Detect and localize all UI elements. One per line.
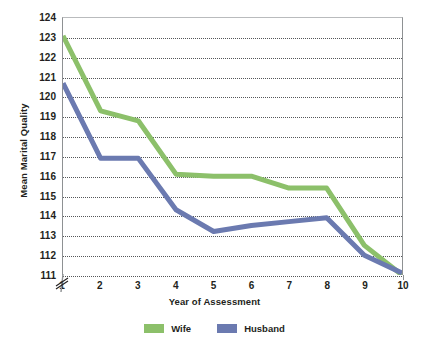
series-layer xyxy=(63,18,402,275)
x-axis-tick-label: 2 xyxy=(87,280,113,291)
y-axis-tick-label: 115 xyxy=(16,190,56,201)
x-axis-tick-label: 5 xyxy=(201,280,227,291)
y-axis-tick-label: 123 xyxy=(16,31,56,42)
x-axis-tick-label: 8 xyxy=(314,280,340,291)
gridline xyxy=(63,276,402,277)
legend-swatch-icon xyxy=(144,324,164,333)
axis-break-icon xyxy=(55,274,71,292)
legend-label: Wife xyxy=(171,323,191,334)
line-chart: Mean Marital Quality 1111121131141151161… xyxy=(0,0,429,346)
y-axis-tick-label: 122 xyxy=(16,51,56,62)
legend-swatch-icon xyxy=(217,324,237,333)
legend-label: Husband xyxy=(244,323,285,334)
legend-item-husband[interactable]: Husband xyxy=(217,323,285,334)
x-axis-tick-label: 4 xyxy=(163,280,189,291)
y-axis-tick-label: 111 xyxy=(16,270,56,281)
y-axis-tick-label: 121 xyxy=(16,71,56,82)
x-axis-tick-label: 6 xyxy=(238,280,264,291)
chart-legend: WifeHusband xyxy=(0,323,429,334)
x-axis-tick-label: 9 xyxy=(352,280,378,291)
x-axis-title: Year of Assessment xyxy=(0,296,429,307)
y-axis-tick-label: 119 xyxy=(16,111,56,122)
y-axis-tick-label: 118 xyxy=(16,131,56,142)
y-axis-tick-label: 114 xyxy=(16,210,56,221)
y-axis-tick-label: 113 xyxy=(16,230,56,241)
y-axis-tick-label: 112 xyxy=(16,250,56,261)
x-axis-tick-mark xyxy=(403,275,404,280)
y-axis-tick-label: 117 xyxy=(16,150,56,161)
x-axis-tick-label: 7 xyxy=(276,280,302,291)
y-axis-tick-label: 124 xyxy=(16,12,56,23)
x-axis-tick-label: 3 xyxy=(125,280,151,291)
x-axis-tick-label: 10 xyxy=(390,280,416,291)
y-axis-tick-label: 120 xyxy=(16,91,56,102)
plot-area xyxy=(62,17,403,275)
legend-item-wife[interactable]: Wife xyxy=(144,323,191,334)
y-axis-tick-label: 116 xyxy=(16,170,56,181)
